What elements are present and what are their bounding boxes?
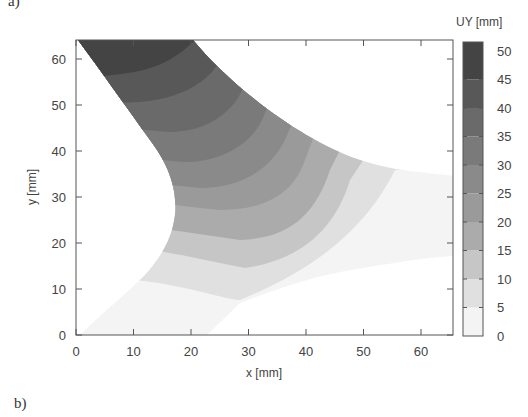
svg-text:0: 0 bbox=[59, 328, 66, 343]
svg-text:40: 40 bbox=[299, 344, 313, 359]
contour-chart: 0 10 20 30 40 50 60 x [mm] 0 10 20 30 40… bbox=[0, 0, 528, 417]
svg-text:30: 30 bbox=[241, 344, 255, 359]
svg-text:10: 10 bbox=[497, 272, 511, 287]
svg-text:30: 30 bbox=[497, 158, 511, 173]
svg-text:40: 40 bbox=[52, 144, 66, 159]
svg-text:5: 5 bbox=[497, 300, 504, 315]
svg-text:15: 15 bbox=[497, 243, 511, 258]
colorbar-title: UY [mm] bbox=[456, 15, 502, 29]
svg-text:20: 20 bbox=[52, 236, 66, 251]
x-axis-title: x [mm] bbox=[246, 366, 282, 380]
svg-text:10: 10 bbox=[52, 282, 66, 297]
panel-label-b: b) bbox=[14, 395, 27, 412]
colorbar bbox=[463, 42, 483, 336]
y-tick-labels: 0 10 20 30 40 50 60 bbox=[52, 52, 66, 343]
svg-text:0: 0 bbox=[72, 344, 79, 359]
svg-text:50: 50 bbox=[497, 44, 511, 59]
y-axis-title: y [mm] bbox=[25, 169, 39, 205]
svg-text:50: 50 bbox=[356, 344, 370, 359]
svg-text:40: 40 bbox=[497, 101, 511, 116]
svg-text:45: 45 bbox=[497, 72, 511, 87]
svg-text:60: 60 bbox=[414, 344, 428, 359]
svg-text:30: 30 bbox=[52, 190, 66, 205]
svg-text:0: 0 bbox=[497, 329, 504, 344]
svg-text:20: 20 bbox=[497, 215, 511, 230]
svg-text:10: 10 bbox=[126, 344, 140, 359]
svg-text:20: 20 bbox=[184, 344, 198, 359]
svg-text:50: 50 bbox=[52, 98, 66, 113]
svg-text:35: 35 bbox=[497, 129, 511, 144]
svg-text:60: 60 bbox=[52, 52, 66, 67]
x-tick-labels: 0 10 20 30 40 50 60 bbox=[72, 344, 428, 359]
svg-text:25: 25 bbox=[497, 186, 511, 201]
colorbar-tick-labels: 0 5 10 15 20 25 30 35 40 45 50 bbox=[497, 44, 511, 344]
